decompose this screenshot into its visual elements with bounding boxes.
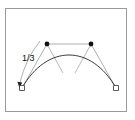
control-polygon: [22, 44, 116, 88]
bezier-diagram: 1/3: [0, 0, 135, 120]
endpoint-markers: [20, 86, 119, 91]
bezier-curve: [22, 55, 116, 88]
end-endpoint-square[interactable]: [114, 86, 119, 91]
figure-root: 1/3: [0, 0, 135, 120]
tangent-lines: [48, 46, 90, 73]
start-endpoint-square[interactable]: [20, 86, 25, 91]
ratio-label: 1/3: [22, 53, 35, 63]
control-point-1-dot[interactable]: [45, 42, 50, 47]
one-third-arrow: [17, 41, 40, 88]
control-point-2-dot[interactable]: [89, 42, 94, 47]
